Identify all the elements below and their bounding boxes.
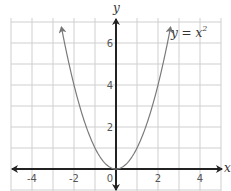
parabola-chart: -4-2024246 x y y = x2: [0, 0, 231, 191]
y-axis-label: y: [112, 1, 120, 15]
y-tick-label: 4: [107, 80, 113, 91]
x-axis-label: x: [224, 161, 231, 175]
equation-exponent: 2: [201, 24, 207, 33]
x-tick-label: 4: [197, 173, 203, 184]
axes: [12, 19, 222, 190]
x-tick-label: 2: [155, 173, 161, 184]
x-tick-label: -4: [27, 173, 37, 184]
y-tick-label: 2: [107, 122, 113, 133]
equation-base: y = x: [170, 26, 202, 40]
x-tick-label: -2: [69, 173, 79, 184]
equation-label: y = x2: [170, 24, 207, 40]
y-tick-label: 6: [107, 38, 113, 49]
x-tick-label: 0: [107, 173, 113, 184]
